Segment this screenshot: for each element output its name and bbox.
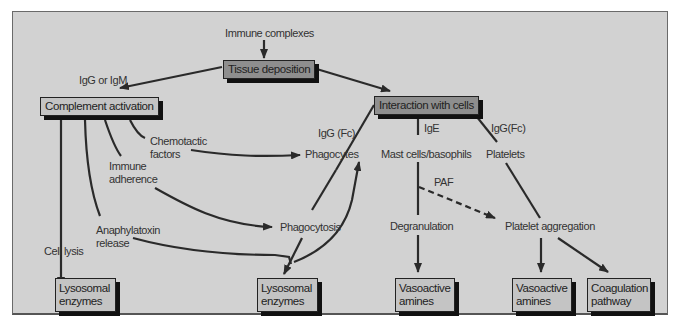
lysosomal-left-line-2: enzymes	[59, 295, 112, 308]
platelets-label: Platelets	[486, 148, 525, 161]
arrow-paf-to-aggregation	[419, 187, 495, 218]
platelet-aggregation-label: Platelet aggregation	[505, 220, 595, 233]
coagulation-pathway-box: Coagulation pathway	[587, 278, 651, 312]
lysosomal-mid-line-1: Lysosomal	[261, 282, 314, 295]
lysosomal-mid-line-2: enzymes	[261, 295, 314, 308]
anaphylatoxin-line-2: release	[96, 237, 160, 250]
vasoactive-1-line-2: amines	[399, 295, 451, 308]
chemotactic-line-2: factors	[150, 148, 207, 161]
interaction-with-cells-label: Interaction with cells	[379, 99, 474, 111]
vasoactive-amines-1-box: Vasoactive amines	[395, 278, 455, 312]
vasoactive-2-line-2: amines	[516, 295, 568, 308]
coagulation-line-1: Coagulation	[591, 282, 647, 295]
anaphylatoxin-line-1: Anaphylatoxin	[96, 224, 160, 237]
coagulation-line-2: pathway	[591, 295, 647, 308]
chemotactic-factors-label: Chemotactic factors	[150, 135, 207, 161]
ige-label: IgE	[424, 122, 439, 135]
immune-adherence-line-1: Immune	[109, 160, 157, 173]
immune-adherence-line-2: adherence	[109, 173, 157, 186]
arrow-tissue-to-interaction	[310, 67, 390, 91]
phagocytes-label: Phagocytes	[305, 148, 358, 161]
arrow-immune-adherence-to-phagocytosis	[155, 188, 272, 227]
phagocytosis-label: Phagocytosis	[280, 221, 341, 234]
arrow-chemotactic-to-phagocytes	[191, 150, 300, 156]
vasoactive-amines-2-box: Vasoactive amines	[512, 278, 572, 312]
vasoactive-2-line-1: Vasoactive	[516, 282, 568, 295]
igg-or-igm-label: IgG or IgM	[79, 74, 127, 87]
lysosomal-left-line-1: Lysosomal	[59, 282, 112, 295]
line-complement-to-anaphylatoxin	[85, 120, 100, 216]
igg-fc-right-label: IgG(Fc)	[491, 122, 525, 135]
arrow-aggregation-to-coagulation	[558, 238, 608, 272]
immune-adherence-label: Immune adherence	[109, 160, 157, 186]
line-phagocytosis-up	[312, 170, 336, 210]
immune-complexes-label: Immune complexes	[225, 27, 314, 40]
interaction-with-cells-box: Interaction with cells	[374, 96, 479, 115]
line-complement-to-chemotactic	[130, 120, 145, 138]
mast-cells-basophils-label: Mast cells/basophils	[381, 148, 471, 161]
arrow-tissue-to-complement	[120, 67, 222, 88]
arrow-junction-to-mast-cells	[294, 162, 359, 262]
lysosomal-enzymes-left-box: Lysosomal enzymes	[55, 278, 116, 312]
paf-label: PAF	[434, 176, 453, 189]
complement-activation-label: Complement activation	[45, 100, 154, 112]
complement-activation-box: Complement activation	[40, 97, 159, 116]
degranulation-label: Degranulation	[390, 220, 453, 233]
line-complement-to-immune-adherence	[105, 120, 121, 156]
lysosomal-enzymes-mid-box: Lysosomal enzymes	[257, 278, 318, 312]
chemotactic-line-1: Chemotactic	[150, 135, 207, 148]
igg-fc-left-label: IgG (Fc)	[318, 127, 355, 140]
line-platelets-to-aggregation	[506, 163, 540, 218]
tissue-deposition-box: Tissue deposition	[223, 60, 315, 79]
cell-lysis-label: Cell lysis	[44, 245, 83, 258]
tissue-deposition-label: Tissue deposition	[228, 63, 310, 75]
anaphylatoxin-release-label: Anaphylatoxin release	[96, 224, 160, 250]
vasoactive-1-line-1: Vasoactive	[399, 282, 451, 295]
